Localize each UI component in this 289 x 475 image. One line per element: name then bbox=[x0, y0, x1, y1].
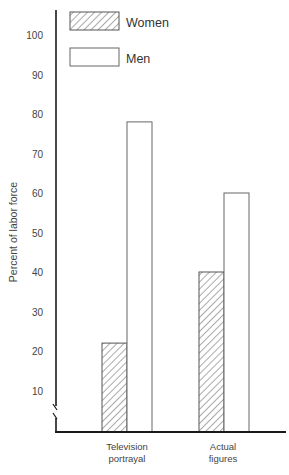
bar-women-television-portrayal bbox=[102, 343, 127, 432]
y-tick-label: 40 bbox=[32, 267, 44, 278]
y-tick-label: 20 bbox=[32, 346, 44, 357]
y-tick-label: 90 bbox=[32, 70, 44, 81]
legend-label-women: Women bbox=[126, 16, 169, 30]
y-tick-label: 100 bbox=[26, 30, 43, 41]
bars bbox=[102, 122, 249, 432]
legend-swatch-women bbox=[70, 12, 119, 30]
y-tick-label: 30 bbox=[32, 307, 44, 318]
y-axis-title: Percent of labor force bbox=[7, 182, 19, 283]
bar-chart: Percent of labor force 10203040506070809… bbox=[0, 0, 289, 475]
y-tick-label: 10 bbox=[32, 386, 44, 397]
x-category-label: Television bbox=[106, 441, 148, 452]
legend: Women Men bbox=[70, 12, 169, 66]
x-axis-category-labels: TelevisionportrayalActualfigures bbox=[106, 441, 237, 464]
x-category-label: portrayal bbox=[109, 453, 146, 464]
y-tick-label: 70 bbox=[32, 149, 44, 160]
bar-women-actual-figures bbox=[199, 272, 224, 432]
axes bbox=[53, 10, 286, 432]
x-category-label: Actual bbox=[210, 441, 236, 452]
y-tick-label: 80 bbox=[32, 109, 44, 120]
bar-men-actual-figures bbox=[224, 193, 249, 432]
y-axis-ticks: 102030405060708090100 bbox=[26, 30, 43, 397]
bar-men-television-portrayal bbox=[127, 122, 152, 432]
y-tick-label: 60 bbox=[32, 188, 44, 199]
y-tick-label: 50 bbox=[32, 228, 44, 239]
x-category-label: figures bbox=[209, 453, 238, 464]
legend-swatch-men bbox=[70, 48, 119, 66]
legend-label-men: Men bbox=[126, 52, 150, 66]
